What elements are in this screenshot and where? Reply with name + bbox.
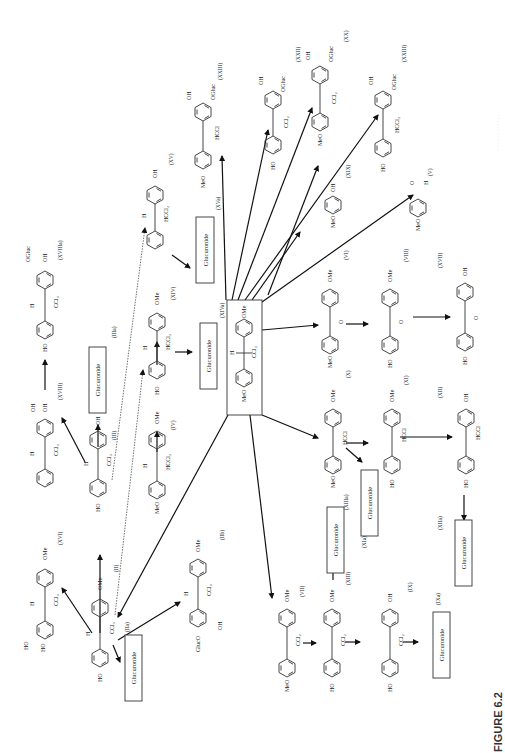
svg-text:OH: OH <box>95 416 101 425</box>
figure-caption: FIGURE 6.2 <box>492 692 504 752</box>
svg-text:HCCl: HCCl <box>475 426 481 440</box>
svg-text:HCCl₂: HCCl₂ <box>165 334 171 350</box>
svg-text:OMe: OMe <box>329 589 335 602</box>
svg-text:HCCl: HCCl <box>401 428 407 442</box>
glucuronide-box-IXa: Glucuronide <box>433 612 450 678</box>
svg-text:HO: HO <box>97 673 103 682</box>
svg-text:(IIb): (IIb) <box>219 530 226 540</box>
glucuronide-box-XIIa: Glucuronide <box>455 520 472 586</box>
svg-text:HO: HO <box>329 683 335 692</box>
compound-IV: OMe MeO H HCCl₂ (IV) <box>142 411 177 514</box>
svg-text:MeO: MeO <box>200 175 206 188</box>
svg-text:OMe: OMe <box>154 411 160 424</box>
svg-text:CCl₃: CCl₃ <box>53 594 59 606</box>
svg-text:H: H <box>85 631 91 636</box>
svg-text:H: H <box>141 213 147 218</box>
svg-text:O: O <box>473 315 479 320</box>
svg-text:(XVI): (XVI) <box>57 531 64 545</box>
svg-text:CCl₃: CCl₃ <box>106 454 112 466</box>
svg-text:(XI): (XI) <box>403 375 410 385</box>
svg-text:HCCl₂: HCCl₂ <box>163 206 169 222</box>
svg-text:OMe: OMe <box>330 389 336 402</box>
svg-text:Glucuronide: Glucuronide <box>438 629 445 662</box>
svg-text:OGluc: OGluc <box>25 246 31 262</box>
svg-text:(XIVa): (XIVa) <box>219 303 226 318</box>
glucuronide-box-XIa: Glucuronide <box>361 470 378 536</box>
svg-text:(XXIII): (XXIII) <box>217 63 224 80</box>
svg-text:CCl₃: CCl₃ <box>109 622 115 634</box>
compound-IIb: OMe GlucO OH H CCl₃ (IIb) <box>183 530 226 652</box>
svg-text:CCl₂: CCl₂ <box>331 92 337 104</box>
svg-text:OMe: OMe <box>42 547 48 560</box>
svg-text:(IXa): (IXa) <box>435 593 442 605</box>
svg-text:MeO: MeO <box>317 133 323 146</box>
label-IIIa: (IIIa) <box>111 326 118 338</box>
compound-XVIIIa: OGluc OH H CCl₃ HO (XVIIIa) <box>25 240 64 352</box>
glucuronide-box-XVa: Glucuronide <box>196 217 214 283</box>
svg-text:O: O <box>409 180 415 185</box>
compound-XVII-right: OH HO O (XVII) <box>437 253 479 365</box>
svg-text:OH: OH <box>330 183 336 192</box>
label-VI: (VI) <box>343 250 350 260</box>
svg-text:CCl₃: CCl₃ <box>53 444 59 456</box>
svg-text:Glucuronide: Glucuronide <box>205 340 212 373</box>
svg-text:(XXIII): (XXIII) <box>401 45 408 62</box>
label-XIIa: (XIIa) <box>437 516 444 530</box>
compound-II: OMe HO H CCl₃ (II) (IIa) <box>85 565 131 682</box>
svg-text:(XIV): (XIV) <box>170 286 177 300</box>
svg-text:OGluc: OGluc <box>280 76 286 92</box>
compound-XVIII: OH OH H CCl₃ (XVIII) <box>29 383 64 487</box>
svg-text:H: H <box>183 591 189 596</box>
svg-text:(VIII): (VIII) <box>403 249 410 262</box>
svg-text:H: H <box>142 463 148 468</box>
svg-text:CCl₂: CCl₂ <box>398 634 404 646</box>
svg-text:OMe: OMe <box>389 389 395 402</box>
svg-text:Glucuronide: Glucuronide <box>202 234 209 267</box>
svg-text:OH: OH <box>258 76 264 85</box>
svg-text:HO: HO <box>387 359 393 368</box>
svg-text:H: H <box>29 601 35 606</box>
glucuronide-box-XIVa: Glucuronide <box>200 323 217 389</box>
svg-text:(V): (V) <box>427 168 434 176</box>
compound-XIV: OMe HO H HCCl₂ (XIV) <box>142 286 177 395</box>
compound-III: OH HO H CCl₃ (III) <box>83 416 118 512</box>
compound-VII: OMe MeO CCl₂ (VII) <box>279 586 306 692</box>
svg-text:OH: OH <box>152 169 158 178</box>
svg-text:(XIII): (XIII) <box>345 572 352 585</box>
svg-text:CCl₃: CCl₃ <box>206 584 212 596</box>
svg-text:(XVIII): (XVIII) <box>57 383 64 400</box>
svg-text:OGluc: OGluc <box>210 84 216 100</box>
svg-text:OMe: OMe <box>195 539 201 552</box>
svg-text:(XVII): (XVII) <box>437 253 444 268</box>
svg-text:OGluc: OGluc <box>391 74 397 90</box>
svg-text:(XX): (XX) <box>343 30 350 42</box>
svg-text:HO: HO <box>389 479 395 488</box>
svg-text:OH: OH <box>30 403 36 412</box>
svg-text:(II): (II) <box>113 565 120 572</box>
svg-text:O: O <box>398 319 404 324</box>
svg-text:HO: HO <box>387 683 393 692</box>
svg-text:MeO: MeO <box>241 389 247 402</box>
compound-XXIII-right: HO OH OGluc HCCl₂ (XXIII) <box>368 45 408 172</box>
compound-XX: MeO OH OGluc CCl₂ (XX) <box>305 30 350 146</box>
svg-text:H: H <box>83 461 89 466</box>
svg-text:(XV): (XV) <box>168 153 175 165</box>
svg-text:OMe: OMe <box>284 589 290 602</box>
glucuronide-box-XIIIa: Glucuronide <box>327 507 344 573</box>
svg-text:CCl₃: CCl₃ <box>251 346 257 358</box>
svg-text:OH: OH <box>462 267 468 276</box>
svg-text:MeO: MeO <box>284 679 290 692</box>
svg-text:(XXII): (XXII) <box>295 47 302 62</box>
svg-text:OMe: OMe <box>387 269 393 282</box>
compound-VIII: OMe HO O (VIII) <box>382 249 410 368</box>
metabolic-pathway-diagram: Glucuronide Glucuronide Glucuronide Gluc… <box>0 0 505 753</box>
svg-text:Glucuronide: Glucuronide <box>332 524 339 557</box>
svg-text:CCl₂: CCl₂ <box>340 634 346 646</box>
svg-text:HO: HO <box>270 161 276 170</box>
svg-text:(XVa): (XVa) <box>215 196 222 210</box>
svg-text:Glucuronide: Glucuronide <box>460 537 467 570</box>
compound-XXIII-top: MeO OH OGluc HCCl (XXIII) <box>186 63 224 188</box>
glucuronide-box-IIIa: Glucuronide <box>89 347 106 413</box>
svg-text:(III): (III) <box>111 431 118 440</box>
svg-text:Glucuronide: Glucuronide <box>94 364 101 397</box>
